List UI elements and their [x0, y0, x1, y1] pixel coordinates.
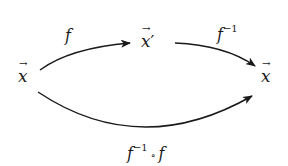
- edge-label-f-inverse: f−1: [217, 26, 238, 43]
- vector-x: x: [261, 68, 271, 85]
- node-x-left: x: [18, 68, 28, 85]
- edge-label-f: f: [65, 28, 71, 44]
- node-x-right: x: [261, 68, 271, 85]
- arrow-composition: [38, 92, 252, 127]
- arrow-f-inverse: [175, 43, 255, 66]
- arrow-f: [40, 43, 130, 70]
- node-x-prime: x′: [141, 33, 154, 50]
- vector-x: x: [141, 33, 151, 50]
- edge-label-composition: f−1∘f: [127, 145, 165, 162]
- vector-x: x: [18, 68, 28, 85]
- prime-mark: ′: [151, 31, 155, 51]
- compose-operator: ∘: [151, 150, 156, 161]
